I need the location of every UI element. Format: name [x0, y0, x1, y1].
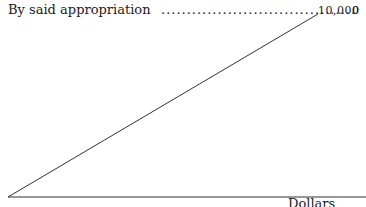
diagonal-line	[8, 14, 318, 197]
diagram-lines	[0, 0, 366, 207]
dollars-label: Dollars	[288, 196, 335, 207]
